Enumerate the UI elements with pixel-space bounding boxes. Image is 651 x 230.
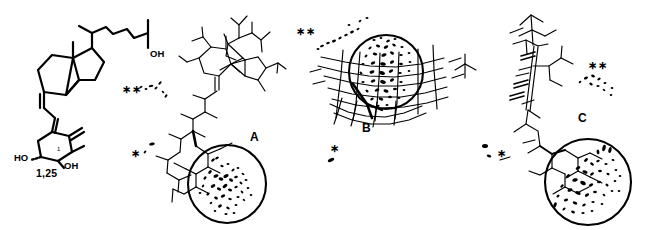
panel-c-star-dots [482, 74, 613, 158]
panel-label-c: C [578, 112, 587, 124]
panel-c-highlight-circle [545, 139, 631, 225]
star-mark-double-panel-c: ∗∗ [588, 60, 607, 71]
star-mark-single-panel-c: ∗ [497, 148, 507, 159]
star-mark-single-panel-a: ∗ [131, 148, 141, 159]
star-mark-double-left: ∗∗ [122, 84, 141, 95]
figure-canvas: HO OH OH 1 1,25 [0, 0, 651, 230]
panel-label-b: B [362, 122, 371, 134]
star-mark-single-panel-b: ∗ [330, 143, 340, 154]
panel-c-model [0, 0, 651, 230]
panel-c-dot-cloud [552, 145, 621, 215]
panel-label-a: A [250, 131, 259, 143]
star-mark-double-panel-b: ∗∗ [296, 26, 315, 37]
